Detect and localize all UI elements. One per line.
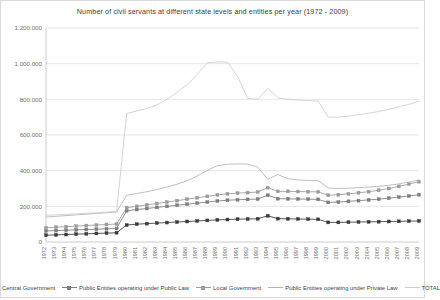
chart-container: Number of civil servants at different st… — [0, 0, 425, 298]
legend-item-4[interactable]: TOTAL — [405, 284, 440, 291]
x-axis-tick-label: 1997 — [293, 247, 299, 259]
series-marker — [276, 217, 279, 220]
legend-item-2[interactable]: Local Government — [196, 284, 261, 291]
series-marker — [236, 218, 239, 221]
series-marker — [75, 225, 78, 228]
x-axis-tick-label: 1992 — [243, 247, 249, 259]
series-marker — [418, 219, 421, 222]
series-marker — [135, 208, 138, 211]
legend-label: TOTAL — [422, 285, 440, 291]
series-marker — [407, 220, 410, 223]
series-marker — [176, 204, 179, 207]
series-marker — [206, 195, 209, 198]
series-marker — [95, 232, 98, 235]
series-marker — [327, 201, 330, 204]
series-marker — [297, 190, 300, 193]
series-marker — [145, 203, 148, 206]
series-marker — [75, 228, 78, 231]
x-axis-tick-label: 2004 — [364, 247, 370, 259]
series-marker — [367, 220, 370, 223]
series-marker — [186, 203, 189, 206]
series-marker — [55, 229, 58, 232]
series-marker — [165, 201, 168, 204]
series-marker — [165, 221, 168, 224]
series-marker — [115, 227, 118, 230]
series-marker — [347, 221, 350, 224]
series-marker — [276, 197, 279, 200]
x-axis-tick-label: 1980 — [122, 247, 128, 259]
series-marker — [226, 218, 229, 221]
series-marker — [186, 220, 189, 223]
x-axis-tick-label: 2009 — [414, 247, 420, 259]
series-marker — [85, 228, 88, 231]
x-axis-tick-label: 1981 — [132, 247, 138, 259]
legend-swatch-icon — [405, 284, 420, 291]
x-axis-tick-label: 1973 — [51, 247, 57, 259]
series-marker — [125, 206, 128, 209]
series-marker — [347, 192, 350, 195]
series-marker — [75, 233, 78, 236]
series-marker — [327, 194, 330, 197]
legend-label: Central Government — [2, 285, 55, 291]
series-marker — [65, 225, 68, 228]
series-marker — [387, 197, 390, 200]
series-marker — [226, 192, 229, 195]
legend-item-3[interactable]: Public Entities operating under Private … — [268, 284, 397, 291]
series-marker — [45, 234, 48, 237]
series-line-0 — [46, 216, 419, 235]
series-marker — [276, 190, 279, 193]
x-axis-tick-label: 1976 — [81, 247, 87, 259]
series-marker — [256, 198, 259, 201]
x-axis-tick-label: 1987 — [192, 247, 198, 259]
series-marker — [95, 228, 98, 231]
series-marker — [216, 199, 219, 202]
y-axis-tick-label: 0 — [39, 238, 43, 245]
series-marker — [155, 206, 158, 209]
series-marker — [286, 197, 289, 200]
series-marker — [226, 199, 229, 202]
series-marker — [286, 217, 289, 220]
chart-legend: Central GovernmentPublic Entities operat… — [1, 284, 424, 291]
series-marker — [196, 196, 199, 199]
series-marker — [85, 232, 88, 235]
x-axis-tick-label: 1993 — [253, 247, 259, 259]
series-marker — [186, 198, 189, 201]
legend-item-1[interactable]: Public Entities operating under Public L… — [62, 284, 189, 291]
x-axis-tick-label: 2005 — [374, 247, 380, 259]
y-axis-tick-label: 600.000 — [20, 131, 43, 138]
x-axis-tick-label: 1988 — [202, 247, 208, 259]
series-marker — [45, 229, 48, 232]
series-marker — [105, 223, 108, 226]
x-axis-tick-label: 2006 — [384, 247, 390, 259]
series-marker — [418, 180, 421, 183]
series-marker — [105, 232, 108, 235]
legend-swatch-icon — [196, 284, 211, 291]
series-marker — [206, 201, 209, 204]
series-marker — [357, 221, 360, 224]
series-marker — [246, 191, 249, 194]
series-marker — [397, 220, 400, 223]
series-marker — [246, 198, 249, 201]
series-marker — [145, 207, 148, 210]
legend-item-0[interactable]: Central Government — [0, 284, 55, 291]
x-axis-tick-label: 2000 — [323, 247, 329, 259]
series-marker — [95, 224, 98, 227]
series-marker — [155, 202, 158, 205]
series-line-2 — [46, 182, 419, 228]
series-marker — [297, 218, 300, 221]
series-marker — [397, 185, 400, 188]
series-marker — [357, 199, 360, 202]
series-marker — [307, 218, 310, 221]
series-marker — [347, 200, 350, 203]
series-marker — [407, 183, 410, 186]
series-marker — [236, 198, 239, 201]
series-marker — [387, 187, 390, 190]
series-marker — [115, 231, 118, 234]
series-marker — [397, 196, 400, 199]
series-marker — [196, 202, 199, 205]
series-marker — [115, 222, 118, 225]
series-marker — [307, 190, 310, 193]
y-axis-tick-label: 1.000.000 — [14, 60, 42, 67]
series-marker — [317, 190, 320, 193]
x-axis-tick-label: 1995 — [273, 247, 279, 259]
